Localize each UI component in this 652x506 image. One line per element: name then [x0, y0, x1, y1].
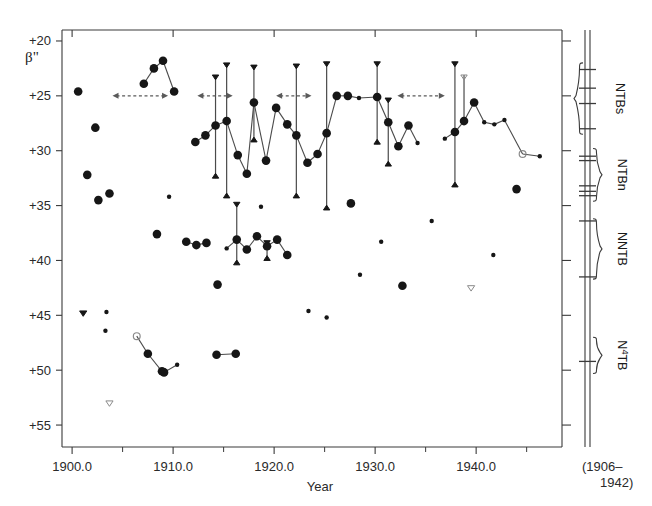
data-point-large [283, 120, 292, 129]
data-point-small [502, 118, 506, 122]
data-point-large [303, 158, 312, 167]
band-brace [593, 219, 602, 279]
filled-triangle-up-marker [452, 182, 458, 187]
y-tick-label: +45 [29, 308, 51, 323]
connector-line [504, 120, 522, 154]
y-tick-label: +20 [29, 33, 51, 48]
filled-triangle-down-marker [234, 202, 240, 207]
data-point-small [358, 273, 362, 277]
filled-triangle-up-marker [293, 193, 299, 198]
band-label: NTBn [615, 159, 629, 191]
y-tick-label: +30 [29, 143, 51, 158]
data-point-large [191, 138, 200, 147]
filled-triangle-down-marker [223, 63, 229, 68]
data-point-large [144, 349, 153, 358]
filled-triangle-up-marker [251, 137, 257, 142]
x-tick-label: 1930.0 [355, 459, 395, 474]
data-point-large [150, 64, 159, 73]
data-point-large [140, 79, 149, 88]
filled-triangle-down-marker [323, 62, 329, 67]
data-point-large [160, 368, 169, 377]
x-tick-label: 1900.0 [52, 459, 92, 474]
data-point-large [470, 98, 479, 107]
data-point-large [344, 92, 353, 101]
data-point-large [253, 232, 262, 241]
data-point-large [231, 349, 240, 358]
data-point-large [451, 128, 460, 137]
data-point-large [91, 123, 100, 132]
data-point-large [273, 235, 282, 244]
filled-triangle-down-marker [385, 98, 391, 103]
range-arrow-head-right [439, 93, 445, 99]
data-point-large [263, 242, 272, 251]
range-arrows-layer [113, 93, 445, 99]
data-point-large [243, 169, 252, 178]
data-point-small [443, 136, 447, 140]
data-point-large [394, 142, 403, 151]
data-point-large [170, 87, 179, 96]
data-point-large [384, 118, 393, 127]
axes-frame: +20+25+30+35+40+45+50+551900.01910.01920… [29, 30, 562, 474]
filled-triangle-up-marker [374, 139, 380, 144]
connector-line [266, 108, 276, 161]
x-tick-label: 1940.0 [456, 459, 496, 474]
data-point-small [415, 141, 419, 145]
range-arrow-head-right [227, 93, 233, 99]
series-NNTB [153, 202, 496, 319]
connector-line [227, 121, 238, 155]
data-point-large [404, 121, 413, 130]
data-point-large [292, 131, 301, 140]
range-arrow [397, 93, 444, 99]
data-point-small [491, 253, 495, 257]
data-point-large [283, 251, 292, 260]
data-point-large [153, 230, 162, 239]
data-point-small [306, 309, 310, 313]
range-arrow-head-left [197, 93, 203, 99]
data-point-small [104, 310, 108, 314]
y-tick-label: +55 [29, 418, 51, 433]
range-arrow-head-left [276, 93, 282, 99]
y-tick-label: +50 [29, 363, 51, 378]
x-tick-label: 1910.0 [153, 459, 193, 474]
range-arrow [113, 93, 169, 99]
y-tick-label: +35 [29, 198, 51, 213]
data-point-large [182, 237, 191, 246]
side-panel-caption-line1: (1906– [582, 459, 623, 474]
data-point-small [538, 154, 542, 158]
data-point-large [212, 351, 221, 360]
filled-triangle-up-marker [234, 260, 240, 265]
data-point-large [211, 121, 220, 130]
data-point-large [94, 196, 103, 205]
data-point-large [460, 117, 469, 126]
range-arrow-head-right [305, 93, 311, 99]
data-point-large [233, 151, 242, 160]
data-point-small [357, 96, 361, 100]
x-tick-label: 1920.0 [254, 459, 294, 474]
data-point-small [259, 204, 263, 208]
data-point-small [429, 219, 433, 223]
series-NTBs [74, 56, 542, 210]
side-summary-panel: NTBsNTBnNNTBN4TB [562, 30, 630, 447]
data-point-large [313, 150, 322, 159]
connector-line [327, 96, 337, 133]
filled-triangle-down-marker [212, 75, 218, 80]
y-tick-label: +40 [29, 253, 51, 268]
band-brace [593, 337, 602, 373]
filled-triangle-down-marker [80, 311, 87, 316]
data-layer [74, 56, 542, 406]
data-point-large [262, 156, 271, 165]
filled-triangle-down-marker [251, 65, 257, 70]
connector-line [163, 61, 174, 92]
data-point-small [167, 195, 171, 199]
open-triangle-down-marker [106, 401, 113, 406]
data-point-large [222, 117, 231, 126]
open-triangle-down-marker [467, 286, 474, 291]
data-point-large [159, 56, 168, 65]
data-point-small [103, 328, 107, 332]
data-point-small [379, 240, 383, 244]
filled-triangle-down-marker [374, 62, 380, 67]
band-label: N4TB [615, 340, 630, 370]
side-panel-caption-line2: 1942) [600, 475, 633, 490]
data-point-large [243, 245, 252, 254]
data-point-large [83, 171, 92, 180]
